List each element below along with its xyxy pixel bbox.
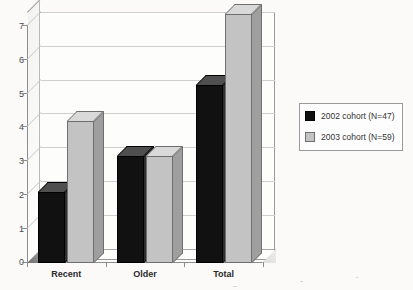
x-axis-label-older: Older: [105, 270, 185, 279]
bar-chart-figure: 7 6 5 4 3 2 1 0 RecentOlderTotal 2002 co…: [0, 0, 413, 290]
x-tick-mark-1: [184, 262, 185, 267]
plot-area: 7 6 5 4 3 2 1 0 RecentOlderTotal: [0, 0, 290, 290]
scan-artifact: [300, 281, 303, 282]
y-tick-label-4: 4: [2, 123, 24, 132]
black-square-swatch-icon: [305, 111, 315, 121]
bar-total-series1: [225, 14, 252, 263]
y-tick-label-7: 7: [2, 22, 24, 31]
x-tick-mark-0: [106, 262, 107, 267]
bar-older-series0: [117, 156, 144, 263]
y-axis-ticks: 7 6 5 4 3 2 1 0: [0, 0, 24, 290]
bar-front-face: [117, 156, 144, 263]
legend-entry-2002: 2002 cohort (N=47): [305, 109, 394, 123]
x-axis-label-total: Total: [184, 270, 264, 279]
legend-label-2002: 2002 cohort (N=47): [321, 112, 394, 121]
bar-side-face: [94, 111, 104, 263]
y-tick-label-2: 2: [2, 191, 24, 200]
bar-side-face: [252, 4, 262, 263]
bar-group-total: [184, 14, 263, 263]
y-tick-label-1: 1: [2, 225, 24, 234]
legend-label-2003: 2003 cohort (N=59): [321, 133, 394, 142]
bar-side-face: [173, 146, 183, 263]
y-tick-label-3: 3: [2, 157, 24, 166]
y-tick-label-0: 0: [2, 258, 24, 267]
bar-recent-series0: [38, 192, 65, 263]
bar-group-recent: [27, 14, 106, 263]
y-tick-label-6: 6: [2, 56, 24, 65]
bar-recent-series1: [67, 121, 94, 263]
legend-entry-2003: 2003 cohort (N=59): [305, 130, 394, 144]
x-axis: RecentOlderTotal: [27, 262, 276, 290]
bar-front-face: [146, 156, 173, 263]
bar-series-layer: [27, 14, 263, 263]
bar-group-older: [106, 14, 185, 263]
floor-right-wedge: [262, 249, 276, 263]
chart-legend: 2002 cohort (N=47) 2003 cohort (N=59): [299, 103, 403, 151]
scan-artifact: [356, 277, 358, 278]
scan-artifact: [233, 286, 237, 287]
bar-front-face: [225, 14, 252, 263]
bar-front-face: [38, 192, 65, 263]
bar-older-series1: [146, 156, 173, 263]
x-tick-mark-2: [263, 262, 264, 267]
gray-square-swatch-icon: [305, 132, 315, 142]
y-tick-label-5: 5: [2, 90, 24, 99]
bar-front-face: [196, 85, 223, 263]
bar-front-face: [67, 121, 94, 263]
x-axis-label-recent: Recent: [26, 270, 106, 279]
bar-total-series0: [196, 85, 223, 263]
x-tick-mark-origin: [27, 262, 28, 267]
